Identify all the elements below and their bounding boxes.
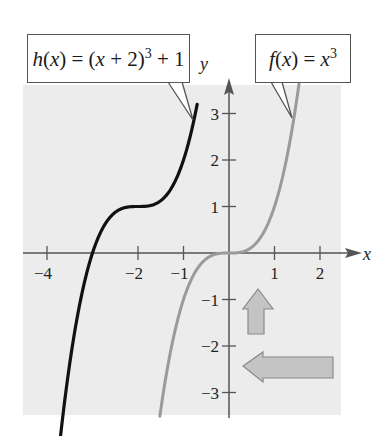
y-tick-label: 2	[211, 151, 220, 170]
y-tick-label: −2	[201, 337, 219, 356]
f-eq: ) =	[291, 47, 320, 71]
left-arrow-icon	[243, 352, 333, 382]
x-axis-label: x	[362, 244, 371, 264]
h-func-name: h	[32, 47, 43, 71]
paren-open: (	[43, 47, 50, 71]
x-tick-label: −1	[170, 264, 188, 283]
h-eq: ) = (	[59, 47, 95, 71]
y-tick-label: −3	[201, 384, 219, 403]
h-function-callout: h(x) = (x + 2)3 + 1	[27, 34, 190, 83]
h-var: x	[50, 47, 59, 71]
f-paren: (	[275, 47, 282, 71]
f-var-2: x	[321, 47, 330, 71]
x-tick-label: −2	[125, 264, 143, 283]
f-function-callout: f(x) = x3	[255, 34, 351, 83]
f-exponent: 3	[330, 46, 337, 61]
x-tick-label: −4	[34, 264, 53, 283]
y-tick-label: 3	[211, 105, 220, 124]
h-var-2: x	[96, 47, 105, 71]
h-exponent: 3	[145, 46, 152, 61]
y-axis-label: y	[198, 54, 208, 74]
h-tail: + 1	[152, 47, 185, 71]
x-tick-label: 1	[270, 264, 279, 283]
y-tick-label: 1	[211, 198, 220, 217]
y-tick-label: −1	[201, 291, 219, 310]
x-tick-label: 2	[316, 264, 325, 283]
h-plus2: + 2)	[105, 47, 145, 71]
f-var: x	[282, 47, 291, 71]
